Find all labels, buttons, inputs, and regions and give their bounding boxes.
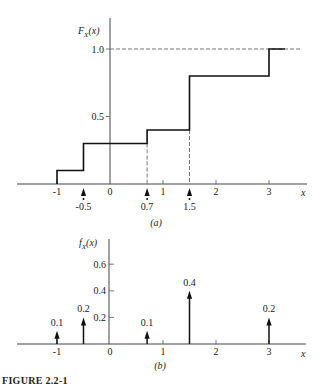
cdf-jump-label: 0.7 — [141, 201, 154, 212]
cdf-jump-arrow-head — [145, 188, 150, 196]
pmf-y-axis-label: fX(x) — [79, 237, 98, 251]
pmf-axes — [17, 239, 306, 344]
cdf-x-tick-label: 2 — [214, 186, 219, 197]
cdf-y-label-arg: (x) — [88, 25, 100, 37]
pmf-marks — [54, 291, 271, 344]
pmf-x-tick-label: 0 — [108, 346, 113, 357]
pmf-x-tick-label: -1 — [53, 346, 61, 357]
pmf-impulse-head — [266, 317, 271, 325]
cdf-jump-label: 1.5 — [183, 201, 196, 212]
cdf-x-tick-label: 3 — [267, 186, 272, 197]
cdf-y-tick-label: 0.5 — [92, 111, 105, 122]
cdf-x-tick-label: 0 — [108, 186, 113, 197]
cdf-marks — [57, 49, 302, 200]
pmf-impulse-label: 0.1 — [141, 317, 154, 328]
pmf-impulse-head — [145, 331, 150, 339]
cdf-x-tick-label: -1 — [53, 186, 61, 197]
pmf-x-tick-label: 2 — [214, 346, 219, 357]
cdf-axes — [17, 18, 307, 184]
pmf-y-tick-label: 0.6 — [94, 259, 107, 270]
pmf-x-axis-label: x — [300, 348, 306, 359]
cdf-jump-arrow-head — [187, 188, 192, 196]
pmf-x-tick-label: 1 — [161, 346, 166, 357]
pmf-y-tick-label: 0.2 — [94, 312, 107, 323]
cdf-labels: -101230.51.0-0.50.71.5 — [53, 44, 272, 213]
cdf-jump-label: -0.5 — [76, 201, 92, 212]
pmf-impulse-head — [54, 331, 59, 339]
pmf-y-label-arg: (x) — [86, 237, 98, 249]
pmf-x-tick-label: 3 — [267, 346, 272, 357]
cdf-y-axis-label: FX(x) — [77, 25, 100, 39]
figure: -101230.51.0-0.50.71.5 FX(x) x (a) -1012… — [0, 0, 326, 388]
pmf-impulse-label: 0.1 — [51, 317, 64, 328]
pmf-impulse-head — [81, 317, 86, 325]
cdf-y-tick-label: 1.0 — [92, 44, 105, 55]
figure-caption: FIGURE 2.2-1 — [2, 375, 68, 386]
pmf-panel: -101230.20.40.60.10.20.10.40.2 fX(x) x (… — [17, 237, 306, 372]
pmf-y-tick-label: 0.4 — [94, 285, 107, 296]
cdf-jump-arrow-head — [81, 188, 86, 196]
pmf-impulse-head — [187, 291, 192, 299]
cdf-panel: -101230.51.0-0.50.71.5 FX(x) x (a) — [17, 18, 307, 229]
pmf-impulse-label: 0.2 — [77, 303, 90, 314]
pmf-panel-label: (b) — [154, 360, 166, 372]
pmf-impulse-label: 0.2 — [263, 303, 276, 314]
cdf-x-axis-label: x — [300, 187, 306, 198]
pmf-impulse-label: 0.4 — [183, 277, 196, 288]
cdf-panel-label: (a) — [150, 217, 162, 229]
cdf-x-tick-label: 1 — [161, 186, 166, 197]
